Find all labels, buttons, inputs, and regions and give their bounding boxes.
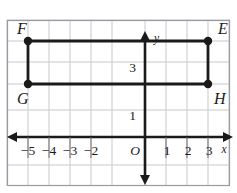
coordinate-plane-figure: −5 −4 −3 −2 1 2 3 O 3 1 x y F E G H [0,0,237,193]
x-tick-label-neg5: −5 [21,143,36,158]
vertex-dot-h [204,80,212,88]
point-label-h: H [213,90,227,107]
y-tick-label-3: 3 [129,60,136,75]
coordinate-plane-canvas: −5 −4 −3 −2 1 2 3 O 3 1 x y F E G H [0,0,237,193]
y-axis-label: y [153,32,160,45]
x-tick-label-2: 2 [185,143,192,158]
x-axis-label: x [220,143,227,155]
x-tick-label-neg2: −2 [84,143,98,158]
x-tick-label-3: 3 [206,143,213,158]
y-tick-label-1: 1 [129,108,136,123]
x-tick-label-neg4: −4 [42,143,57,158]
plot-background [7,20,230,186]
point-label-e: E [217,20,228,37]
vertex-dot-f [24,37,32,45]
vertex-dot-e [204,37,212,45]
point-label-g: G [17,90,29,107]
origin-label: O [130,143,140,158]
vertex-dot-g [24,80,32,88]
x-tick-label-neg3: −3 [63,143,78,158]
x-tick-label-1: 1 [164,143,171,158]
point-label-f: F [16,20,27,37]
